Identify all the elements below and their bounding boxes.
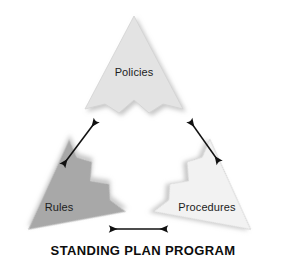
node-policies[interactable]: Policies xyxy=(85,16,183,113)
standing-plan-program-diagram: Policies Rules Procedures STANDING PLAN … xyxy=(0,0,283,269)
policies-label: Policies xyxy=(115,66,154,78)
policies-shape xyxy=(85,16,183,113)
procedures-label: Procedures xyxy=(178,201,236,213)
diagram-canvas: Policies Rules Procedures STANDING PLAN … xyxy=(0,0,283,269)
diagram-caption: STANDING PLAN PROGRAM xyxy=(51,243,236,258)
rules-label: Rules xyxy=(45,201,74,213)
